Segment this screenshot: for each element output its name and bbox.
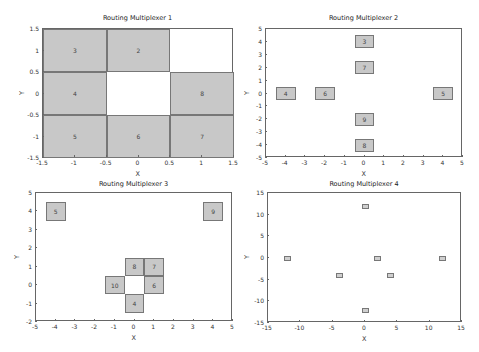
y-tick-mark [267, 192, 269, 193]
x-tick-label: 5 [394, 324, 398, 331]
y-tick-mark [267, 300, 269, 301]
y-tick-label: 1 [246, 76, 262, 83]
y-tick-label: -1.5 [23, 154, 39, 161]
y-tick-label: -3 [246, 128, 262, 135]
x-tick-mark [138, 155, 139, 157]
x-tick-mark [74, 155, 75, 157]
x-tick-mark [299, 320, 300, 322]
y-tick-mark [265, 93, 267, 94]
cell-box [439, 256, 446, 261]
x-tick-label: 5 [460, 159, 464, 166]
x-tick-mark [462, 155, 463, 157]
x-tick-label: -1 [71, 159, 77, 166]
x-tick-label: 1.5 [228, 159, 238, 166]
cell-box [284, 256, 291, 261]
y-tick-mark [267, 257, 269, 258]
y-tick-label: 3 [246, 50, 262, 57]
x-axis-label: X [362, 335, 366, 343]
y-tick-mark [265, 54, 267, 55]
chart-title: Routing Multiplexer 4 [267, 180, 461, 188]
x-tick-mark [173, 319, 174, 321]
y-tick-label: -4 [246, 141, 262, 148]
x-tick-label: -2 [321, 159, 327, 166]
y-tick-mark [35, 266, 37, 267]
x-tick-label: 2 [401, 159, 405, 166]
y-tick-label: 4 [16, 207, 32, 214]
y-tick-label: -15 [248, 319, 264, 326]
x-tick-mark [364, 320, 365, 322]
cell-box: 3 [355, 35, 375, 48]
x-tick-mark [304, 155, 305, 157]
x-tick-label: 4 [440, 159, 444, 166]
y-tick-mark [42, 157, 44, 158]
x-tick-mark [364, 155, 365, 157]
x-tick-mark [134, 319, 135, 321]
x-tick-mark [232, 319, 233, 321]
y-tick-label: 4 [246, 37, 262, 44]
plot-area: 3248567 [42, 28, 233, 157]
y-tick-label: -1 [246, 102, 262, 109]
x-tick-mark [344, 155, 345, 157]
y-tick-mark [267, 322, 269, 323]
x-tick-label: 5 [230, 323, 234, 330]
y-tick-label: 2 [246, 63, 262, 70]
y-tick-mark [35, 247, 37, 248]
cell-box: 8 [125, 258, 145, 276]
plot-area: 3746598 [265, 28, 462, 157]
x-tick-label: -4 [52, 323, 58, 330]
cell-box: 6 [315, 87, 335, 100]
cell-box [387, 273, 394, 278]
plot-area [267, 192, 461, 322]
x-tick-mark [332, 320, 333, 322]
cell-box [374, 256, 381, 261]
y-tick-mark [35, 192, 37, 193]
cell-box: 7 [170, 115, 234, 158]
cell-box: 4 [125, 294, 145, 312]
x-tick-label: -5 [329, 324, 335, 331]
x-tick-mark [442, 155, 443, 157]
x-tick-label: 4 [210, 323, 214, 330]
x-tick-mark [429, 320, 430, 322]
x-tick-mark [153, 319, 154, 321]
x-tick-label: 0 [136, 159, 140, 166]
y-tick-mark [265, 105, 267, 106]
x-tick-mark [423, 155, 424, 157]
y-tick-label: -2 [16, 318, 32, 325]
x-tick-mark [233, 155, 234, 157]
y-tick-mark [267, 235, 269, 236]
cell-box: 8 [170, 72, 234, 115]
y-tick-label: 1 [23, 46, 39, 53]
y-tick-mark [42, 136, 44, 137]
x-tick-label: 0 [132, 323, 136, 330]
x-tick-label: 3 [421, 159, 425, 166]
x-tick-label: 3 [191, 323, 195, 330]
y-tick-label: 1.5 [23, 25, 39, 32]
y-tick-mark [265, 131, 267, 132]
y-tick-mark [265, 28, 267, 29]
x-tick-mark [201, 155, 202, 157]
y-axis-label: Y [243, 255, 251, 259]
y-axis-label: Y [13, 255, 21, 259]
y-tick-label: 5 [248, 232, 264, 239]
x-tick-mark [106, 155, 107, 157]
y-tick-label: 0.5 [23, 68, 39, 75]
y-tick-mark [265, 144, 267, 145]
y-tick-label: 0 [16, 281, 32, 288]
y-tick-label: -5 [248, 275, 264, 282]
y-tick-mark [35, 303, 37, 304]
x-axis-label: X [136, 170, 140, 178]
y-tick-label: 5 [246, 25, 262, 32]
y-tick-label: -5 [246, 154, 262, 161]
cell-box [336, 273, 343, 278]
x-tick-label: 0 [362, 324, 366, 331]
x-tick-mark [114, 319, 115, 321]
x-tick-mark [55, 319, 56, 321]
y-tick-label: -1 [23, 132, 39, 139]
x-tick-mark [169, 155, 170, 157]
y-tick-label: 10 [248, 210, 264, 217]
x-tick-mark [212, 319, 213, 321]
x-tick-label: 10 [425, 324, 433, 331]
y-tick-mark [265, 80, 267, 81]
cell-box: 2 [107, 29, 171, 72]
cell-box: 6 [107, 115, 171, 158]
